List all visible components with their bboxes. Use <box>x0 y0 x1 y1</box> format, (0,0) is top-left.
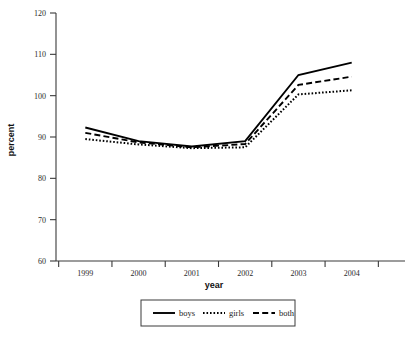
y-tick-label: 120 <box>34 9 46 18</box>
y-tick-label: 110 <box>34 50 46 59</box>
x-tick-label: 2003 <box>290 269 306 278</box>
legend-label-boys: boys <box>179 308 195 318</box>
y-tick-label: 60 <box>38 257 46 266</box>
legend-label-both: both <box>279 308 295 318</box>
x-tick-label: 2000 <box>131 269 147 278</box>
line-chart: 60708090100110120 1999200020012002200320… <box>0 0 414 342</box>
y-tick-label: 90 <box>38 133 46 142</box>
chart-canvas: 60708090100110120 1999200020012002200320… <box>0 0 414 342</box>
y-tick-label: 100 <box>34 92 46 101</box>
x-tick-label: 1999 <box>77 269 93 278</box>
x-axis-title: year <box>205 280 224 290</box>
y-tick-label: 70 <box>38 216 46 225</box>
y-tick-label: 80 <box>38 174 46 183</box>
chart-background <box>0 0 414 342</box>
chart-legend: boysgirlsboth <box>141 300 295 326</box>
x-tick-label: 2002 <box>237 269 253 278</box>
legend-label-girls: girls <box>229 308 244 318</box>
x-tick-label: 2001 <box>184 269 200 278</box>
y-axis-title: percent <box>6 124 16 157</box>
x-tick-label: 2004 <box>344 269 360 278</box>
